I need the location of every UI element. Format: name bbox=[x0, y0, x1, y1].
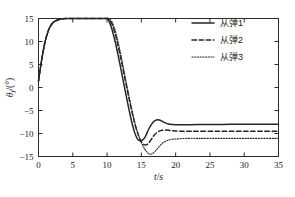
legend-label-3: 从弹3 bbox=[220, 51, 243, 62]
x-tick-label: 10 bbox=[103, 160, 113, 170]
chart-legend: 从弹1从弹2从弹3 bbox=[192, 17, 243, 62]
x-tick-label: 5 bbox=[71, 160, 76, 170]
y-tick-label: −5 bbox=[24, 106, 34, 116]
y-tick-label: 10 bbox=[25, 37, 35, 47]
y-tick-label: −15 bbox=[19, 152, 34, 162]
chart-figure: 05101520253035 151050−5−10−15 从弹1从弹2从弹3 … bbox=[0, 0, 295, 197]
x-tick-label: 30 bbox=[240, 160, 250, 170]
x-tick-label: 35 bbox=[274, 160, 284, 170]
x-tick-label: 15 bbox=[137, 160, 147, 170]
x-tick-labels: 05101520253035 bbox=[36, 160, 283, 170]
x-tick-label: 20 bbox=[171, 160, 181, 170]
x-axis-title: t/s bbox=[154, 172, 163, 182]
y-tick-label: −10 bbox=[19, 129, 34, 139]
x-tick-label: 25 bbox=[205, 160, 215, 170]
legend-label-1: 从弹1 bbox=[220, 17, 243, 28]
legend-label-2: 从弹2 bbox=[220, 34, 243, 45]
y-tick-labels: 151050−5−10−15 bbox=[19, 14, 34, 162]
y-tick-label: 0 bbox=[29, 83, 34, 93]
y-tick-label: 15 bbox=[25, 14, 35, 24]
y-axis-title: θf/(°) bbox=[5, 78, 17, 97]
line-chart: 05101520253035 151050−5−10−15 从弹1从弹2从弹3 … bbox=[0, 0, 295, 197]
y-tick-label: 5 bbox=[29, 60, 34, 70]
x-tick-label: 0 bbox=[36, 160, 41, 170]
